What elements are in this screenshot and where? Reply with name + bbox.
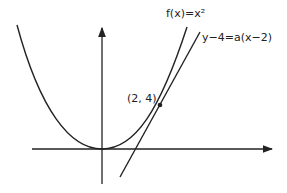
function-label: f(x)=x² (166, 7, 205, 20)
tangent-label: y−4=a(x−2) (202, 31, 272, 44)
point-label: (2, 4) (127, 92, 157, 105)
tangent-point (158, 103, 163, 108)
diagram: f(x)=x² y−4=a(x−2) (2, 4) (0, 0, 287, 193)
